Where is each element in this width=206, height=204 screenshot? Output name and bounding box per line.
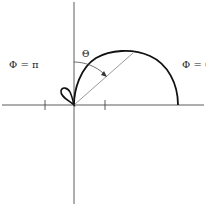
phi-zero-label: Φ = 0 — [182, 59, 206, 70]
back-lobe-curve — [61, 88, 74, 105]
theta-label: Θ — [82, 49, 89, 59]
radius-line — [74, 53, 133, 105]
polar-diagram — [0, 0, 206, 204]
phi-pi-label: Φ = π — [9, 59, 39, 70]
